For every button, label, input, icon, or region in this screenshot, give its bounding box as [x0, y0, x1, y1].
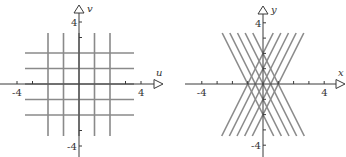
arrow-up-icon	[74, 5, 84, 13]
arrow-up-icon	[258, 6, 268, 14]
tick-label-y-pos: 4	[255, 18, 261, 29]
tick-label-y-pos: 4	[71, 17, 77, 28]
tick-label-x-neg: -4	[12, 87, 22, 98]
xy-plane: -444-4xy	[185, 4, 345, 157]
tick-label-x-pos: 4	[321, 87, 327, 98]
uv-plane: -444-4uv	[0, 3, 163, 157]
tick-label-y-neg: -4	[251, 140, 261, 151]
y-axis-label: v	[87, 3, 93, 14]
arrow-right-icon	[336, 80, 345, 89]
y-axis-label: y	[270, 4, 277, 15]
tick-label-y-neg: -4	[67, 141, 77, 152]
arrow-right-icon	[154, 80, 163, 89]
x-axis-label: x	[338, 67, 344, 78]
tick-label-x-neg: -4	[197, 87, 207, 98]
tick-label-x-pos: 4	[138, 87, 144, 98]
figure-canvas: -444-4uv -444-4xy	[0, 0, 346, 157]
x-axis-label: u	[156, 67, 162, 78]
